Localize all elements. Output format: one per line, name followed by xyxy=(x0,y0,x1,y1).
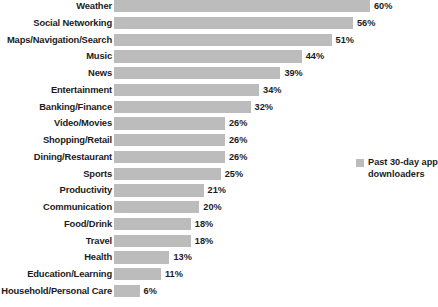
bar-category-label: Music xyxy=(0,50,112,62)
bar-fill xyxy=(114,168,221,180)
bar-track xyxy=(114,0,370,12)
bar-track xyxy=(114,67,280,79)
bar-fill xyxy=(114,84,259,96)
bar-category-label: Social Networking xyxy=(0,17,112,29)
bar-row: Health13% xyxy=(0,251,438,268)
bar-track xyxy=(114,117,225,129)
bar-track xyxy=(114,268,161,280)
bar-fill xyxy=(114,285,140,297)
bar-fill xyxy=(114,251,169,263)
chart-plot-area: Weather60%Social Networking56%Maps/Navig… xyxy=(0,0,438,307)
bar-track xyxy=(114,50,302,62)
bar-track xyxy=(114,34,332,46)
bar-track xyxy=(114,134,225,146)
bar-track xyxy=(114,285,140,297)
bar-track xyxy=(114,235,191,247)
bar-value-label: 11% xyxy=(161,268,183,280)
bar-row: Shopping/Retail26% xyxy=(0,134,438,151)
bar-track xyxy=(114,84,259,96)
bar-value-label: 18% xyxy=(191,235,213,247)
bar-fill xyxy=(114,134,225,146)
bar-row: Entertainment34% xyxy=(0,84,438,101)
bar-category-label: Dining/Restaurant xyxy=(0,151,112,163)
bar-value-label: 21% xyxy=(204,184,226,196)
bar-category-label: News xyxy=(0,67,112,79)
bar-track xyxy=(114,184,204,196)
bar-fill xyxy=(114,218,191,230)
bar-fill xyxy=(114,201,199,213)
bar-value-label: 26% xyxy=(225,134,247,146)
bar-category-label: Communication xyxy=(0,201,112,213)
bar-row: Video/Movies26% xyxy=(0,117,438,134)
bar-value-label: 56% xyxy=(353,17,375,29)
bar-fill xyxy=(114,117,225,129)
bar-value-label: 34% xyxy=(259,84,281,96)
bar-value-label: 18% xyxy=(191,218,213,230)
bar-row: Maps/Navigation/Search51% xyxy=(0,34,438,51)
app-category-bar-chart: Weather60%Social Networking56%Maps/Navig… xyxy=(0,0,438,307)
legend-swatch-icon xyxy=(356,159,364,167)
bar-row: Banking/Finance32% xyxy=(0,101,438,118)
bar-category-label: Weather xyxy=(0,0,112,12)
bar-category-label: Health xyxy=(0,251,112,263)
bar-track xyxy=(114,17,353,29)
bar-row: Food/Drink18% xyxy=(0,218,438,235)
bar-row: Communication20% xyxy=(0,201,438,218)
bar-value-label: 39% xyxy=(280,67,302,79)
bar-track xyxy=(114,101,251,113)
bar-category-label: Video/Movies xyxy=(0,117,112,129)
bar-category-label: Maps/Navigation/Search xyxy=(0,34,112,46)
bar-category-label: Travel xyxy=(0,235,112,247)
bar-row: Travel18% xyxy=(0,235,438,252)
bar-track xyxy=(114,151,225,163)
chart-legend: Past 30-day app downloaders xyxy=(356,157,438,180)
bar-fill xyxy=(114,184,204,196)
bar-category-label: Entertainment xyxy=(0,84,112,96)
bar-fill xyxy=(114,0,370,12)
bar-track xyxy=(114,251,169,263)
bar-value-label: 44% xyxy=(302,50,324,62)
bar-value-label: 20% xyxy=(199,201,221,213)
bar-value-label: 32% xyxy=(251,101,273,113)
bar-row: Education/Learning11% xyxy=(0,268,438,285)
bar-track xyxy=(114,168,221,180)
bar-value-label: 6% xyxy=(140,285,157,297)
bar-fill xyxy=(114,268,161,280)
bar-track xyxy=(114,218,191,230)
bar-value-label: 13% xyxy=(169,251,191,263)
bar-row: Social Networking56% xyxy=(0,17,438,34)
bar-value-label: 26% xyxy=(225,151,247,163)
bar-category-label: Sports xyxy=(0,168,112,180)
bar-category-label: Food/Drink xyxy=(0,218,112,230)
bar-category-label: Productivity xyxy=(0,184,112,196)
bar-fill xyxy=(114,17,353,29)
bar-fill xyxy=(114,235,191,247)
bar-row: Household/Personal Care6% xyxy=(0,285,438,302)
bar-row: News39% xyxy=(0,67,438,84)
bar-row: Productivity21% xyxy=(0,184,438,201)
bar-row: Weather60% xyxy=(0,0,438,17)
bar-fill xyxy=(114,151,225,163)
bar-fill xyxy=(114,67,280,79)
bar-fill xyxy=(114,50,302,62)
bar-category-label: Household/Personal Care xyxy=(0,285,112,297)
bar-track xyxy=(114,201,199,213)
bar-row: Music44% xyxy=(0,50,438,67)
bar-category-label: Education/Learning xyxy=(0,268,112,280)
bar-value-label: 60% xyxy=(370,0,392,12)
legend-label: Past 30-day app downloaders xyxy=(368,157,438,180)
bar-fill xyxy=(114,101,251,113)
bar-fill xyxy=(114,34,332,46)
bar-category-label: Banking/Finance xyxy=(0,101,112,113)
bar-category-label: Shopping/Retail xyxy=(0,134,112,146)
bar-value-label: 51% xyxy=(332,34,354,46)
bar-value-label: 25% xyxy=(221,168,243,180)
bar-value-label: 26% xyxy=(225,117,247,129)
